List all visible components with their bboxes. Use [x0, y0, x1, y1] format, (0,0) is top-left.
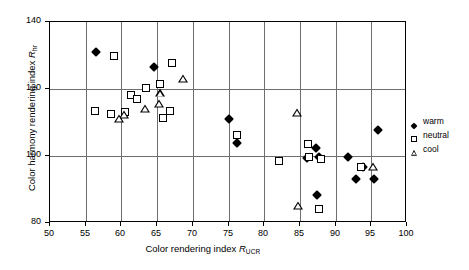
x-axis-tick	[228, 222, 229, 226]
data-point-neutral	[233, 131, 241, 139]
y-axis-tick-label: 100	[15, 149, 41, 159]
data-point-warm	[91, 47, 101, 57]
data-point-neutral	[91, 107, 99, 115]
x-axis-tick	[192, 222, 193, 226]
y-axis-tick-label: 140	[15, 15, 41, 25]
x-axis-title-subscript: UCR	[246, 248, 261, 255]
data-point-warm	[312, 190, 322, 200]
data-point-neutral	[315, 205, 323, 213]
data-point-warm	[232, 138, 242, 148]
x-axis-tick-label: 85	[284, 228, 314, 238]
y-axis-tick	[45, 155, 49, 156]
legend-item-cool: cool	[414, 142, 469, 156]
x-axis-tick-label: 70	[177, 228, 207, 238]
x-axis-tick	[120, 222, 121, 226]
data-point-neutral	[133, 95, 141, 103]
x-axis-title: Color rendering index RUCR	[0, 243, 406, 255]
data-point-neutral	[166, 107, 174, 115]
data-point-cool	[114, 114, 124, 122]
data-point-neutral	[110, 52, 118, 60]
open-triangle-icon	[414, 149, 420, 163]
y-axis-tick-label: 80	[15, 216, 41, 226]
data-point-cool	[368, 163, 378, 171]
legend-item-neutral: neutral	[414, 128, 469, 142]
x-axis-tick-label: 90	[320, 228, 350, 238]
data-point-cool	[293, 201, 303, 209]
gridline-vertical	[193, 22, 194, 221]
data-point-warm	[373, 125, 383, 135]
data-point-cool	[155, 89, 165, 97]
legend-label-neutral: neutral	[423, 128, 449, 142]
y-axis-tick	[45, 88, 49, 89]
data-point-cool	[140, 105, 150, 113]
x-axis-tick-label: 75	[213, 228, 243, 238]
x-axis-tick	[406, 222, 407, 226]
x-axis-tick	[263, 222, 264, 226]
x-axis-tick-label: 100	[391, 228, 421, 238]
data-point-neutral	[142, 84, 150, 92]
data-point-cool	[292, 108, 302, 116]
x-axis-tick	[299, 222, 300, 226]
x-axis-tick	[335, 222, 336, 226]
y-axis-title-subscript: hr	[31, 45, 38, 51]
x-axis-tick-label: 55	[70, 228, 100, 238]
data-point-cool	[154, 100, 164, 108]
y-axis-tick	[45, 21, 49, 22]
data-point-warm	[351, 174, 361, 184]
x-axis-tick-label: 50	[34, 228, 64, 238]
x-axis-tick-label: 65	[141, 228, 171, 238]
x-axis-title-symbol: R	[239, 243, 246, 254]
gridline-vertical	[371, 22, 372, 221]
y-axis-tick-label: 120	[15, 82, 41, 92]
data-point-neutral	[357, 163, 365, 171]
plot-area	[49, 21, 406, 222]
gridline-vertical	[86, 22, 87, 221]
data-point-neutral	[275, 157, 283, 165]
gridline-vertical	[336, 22, 337, 221]
data-point-neutral	[168, 59, 176, 67]
data-point-warm	[224, 114, 234, 124]
x-axis-tick-label: 60	[105, 228, 135, 238]
chart-root: Color rendering index RUCR Color harmony…	[0, 0, 469, 270]
legend-label-cool: cool	[423, 142, 439, 156]
gridline-vertical	[300, 22, 301, 221]
data-point-warm	[311, 143, 321, 153]
data-point-neutral	[304, 140, 312, 148]
data-point-warm	[343, 152, 353, 162]
data-point-neutral	[156, 80, 164, 88]
x-axis-tick-label: 80	[248, 228, 278, 238]
x-axis-tick-label: 95	[355, 228, 385, 238]
y-axis-title: Color harmony rendering index Rhr	[26, 23, 38, 213]
gridline-vertical	[264, 22, 265, 221]
y-axis-title-symbol: R	[26, 51, 37, 58]
x-axis-title-main: Color rendering index	[145, 243, 238, 254]
y-axis-title-main: Color harmony rendering index	[26, 58, 37, 191]
data-point-neutral	[317, 155, 325, 163]
legend-item-warm: warm	[414, 114, 469, 128]
data-point-neutral	[305, 153, 313, 161]
gridline-horizontal	[50, 89, 405, 90]
legend: warm neutral cool	[414, 114, 469, 156]
x-axis-tick	[49, 222, 50, 226]
x-axis-tick	[85, 222, 86, 226]
x-axis-tick	[370, 222, 371, 226]
x-axis-tick	[156, 222, 157, 226]
y-axis-tick	[45, 222, 49, 223]
data-point-cool	[178, 74, 188, 82]
legend-label-warm: warm	[423, 114, 444, 128]
